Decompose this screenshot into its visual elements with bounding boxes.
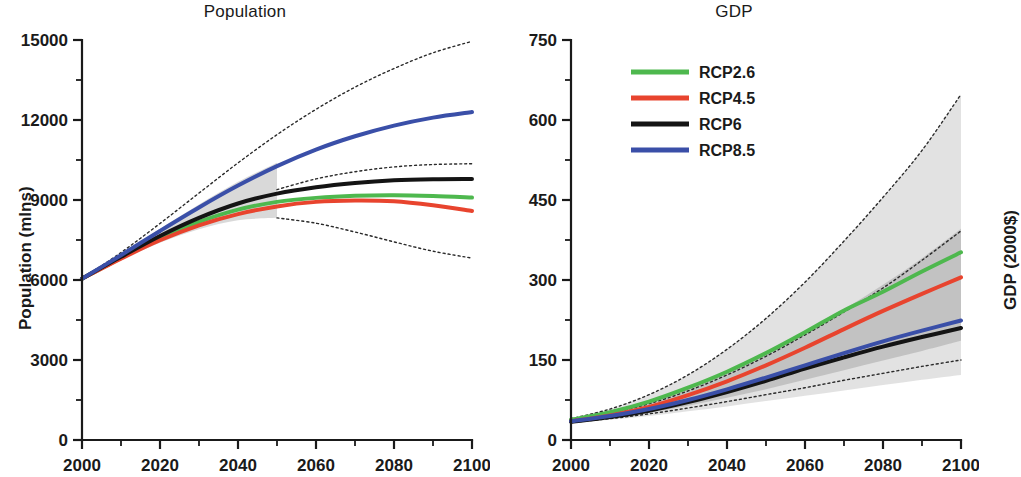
x-tick-label: 2000 — [63, 456, 101, 475]
y-tick-label: 450 — [529, 191, 557, 210]
population-panel: Population Population (mlns) 03000600090… — [0, 0, 490, 477]
gdp-y-axis-label: GDP (2000$) — [1001, 210, 1021, 310]
y-tick-label: 12000 — [21, 111, 68, 130]
envelope-line — [277, 164, 472, 190]
gdp-panel: GDP GDP (2000$) 015030045060075020002020… — [489, 0, 979, 477]
x-tick-label: 2020 — [630, 456, 668, 475]
legend-label-rcp4-5: RCP4.5 — [699, 90, 755, 107]
population-plot: 0300060009000120001500020002020204020602… — [0, 0, 490, 477]
x-tick-label: 2060 — [297, 456, 335, 475]
legend-label-rcp8-5: RCP8.5 — [699, 142, 755, 159]
legend-label-rcp6: RCP6 — [699, 116, 742, 133]
y-tick-label: 3000 — [30, 351, 68, 370]
x-tick-label: 2080 — [375, 456, 413, 475]
y-tick-label: 0 — [548, 431, 557, 450]
x-tick-label: 2080 — [864, 456, 902, 475]
axis-spines — [82, 40, 472, 440]
y-tick-label: 0 — [59, 431, 68, 450]
x-tick-label: 2100 — [453, 456, 490, 475]
y-tick-label: 150 — [529, 351, 557, 370]
envelope-line — [277, 218, 472, 258]
x-tick-label: 2040 — [219, 456, 257, 475]
x-tick-label: 2040 — [708, 456, 746, 475]
y-tick-label: 15000 — [21, 31, 68, 50]
y-tick-label: 300 — [529, 271, 557, 290]
x-tick-label: 2060 — [786, 456, 824, 475]
legend-label-rcp2-6: RCP2.6 — [699, 64, 755, 81]
gdp-plot: 0150300450600750200020202040206020802100… — [489, 0, 979, 477]
y-tick-label: 6000 — [30, 271, 68, 290]
y-tick-label: 750 — [529, 31, 557, 50]
x-tick-label: 2100 — [942, 456, 979, 475]
x-tick-label: 2020 — [141, 456, 179, 475]
x-tick-label: 2000 — [552, 456, 590, 475]
y-tick-label: 600 — [529, 111, 557, 130]
y-tick-label: 9000 — [30, 191, 68, 210]
